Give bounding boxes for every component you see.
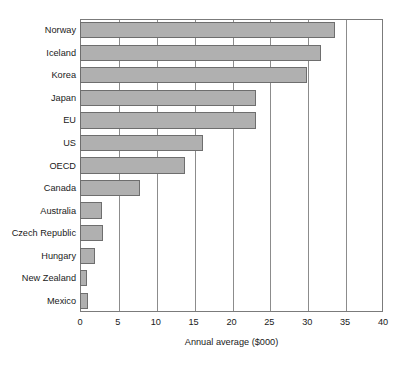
- category-label-czech-republic: Czech Republic: [0, 228, 76, 238]
- bar-row: [80, 270, 383, 286]
- bar-row: [80, 112, 383, 128]
- bar-row: [80, 135, 383, 151]
- bar-canada: [80, 180, 140, 196]
- x-tick-25: 25: [264, 316, 274, 328]
- x-axis-title: Annual average ($000): [80, 337, 383, 347]
- category-label-japan: Japan: [0, 93, 76, 103]
- category-label-eu: EU: [0, 115, 76, 125]
- category-label-us: US: [0, 138, 76, 148]
- bar-iceland: [80, 45, 321, 61]
- bar-us: [80, 135, 203, 151]
- x-tick-40: 40: [378, 316, 388, 328]
- category-label-canada: Canada: [0, 183, 76, 193]
- bar-row: [80, 225, 383, 241]
- bar-mexico: [80, 293, 88, 309]
- bar-chart: NorwayIcelandKoreaJapanEUUSOECDCanadaAus…: [0, 0, 403, 366]
- x-tick-10: 10: [151, 316, 161, 328]
- bar-japan: [80, 90, 256, 106]
- x-axis-tick-labels: 0510152025303540: [0, 316, 403, 330]
- bar-australia: [80, 202, 102, 218]
- x-tick-20: 20: [226, 316, 236, 328]
- x-tick-15: 15: [189, 316, 199, 328]
- x-tick-30: 30: [302, 316, 312, 328]
- category-label-norway: Norway: [0, 25, 76, 35]
- bar-row: [80, 180, 383, 196]
- category-label-new-zealand: New Zealand: [0, 273, 76, 283]
- bar-czech-republic: [80, 225, 103, 241]
- x-tick-5: 5: [115, 316, 120, 328]
- bar-row: [80, 45, 383, 61]
- bar-korea: [80, 67, 307, 83]
- category-label-hungary: Hungary: [0, 251, 76, 261]
- bar-hungary: [80, 248, 95, 264]
- category-label-australia: Australia: [0, 206, 76, 216]
- bar-oecd: [80, 157, 185, 173]
- bar-row: [80, 67, 383, 83]
- bar-row: [80, 202, 383, 218]
- category-label-iceland: Iceland: [0, 48, 76, 58]
- bar-row: [80, 248, 383, 264]
- bar-norway: [80, 22, 335, 38]
- bar-eu: [80, 112, 256, 128]
- bars-layer: [80, 19, 383, 312]
- category-label-mexico: Mexico: [0, 296, 76, 306]
- x-tick-35: 35: [340, 316, 350, 328]
- category-axis-labels: NorwayIcelandKoreaJapanEUUSOECDCanadaAus…: [0, 19, 76, 312]
- bar-row: [80, 90, 383, 106]
- category-label-korea: Korea: [0, 70, 76, 80]
- bar-new-zealand: [80, 270, 87, 286]
- bar-row: [80, 22, 383, 38]
- bar-row: [80, 157, 383, 173]
- bar-row: [80, 293, 383, 309]
- x-tick-0: 0: [77, 316, 82, 328]
- category-label-oecd: OECD: [0, 161, 76, 171]
